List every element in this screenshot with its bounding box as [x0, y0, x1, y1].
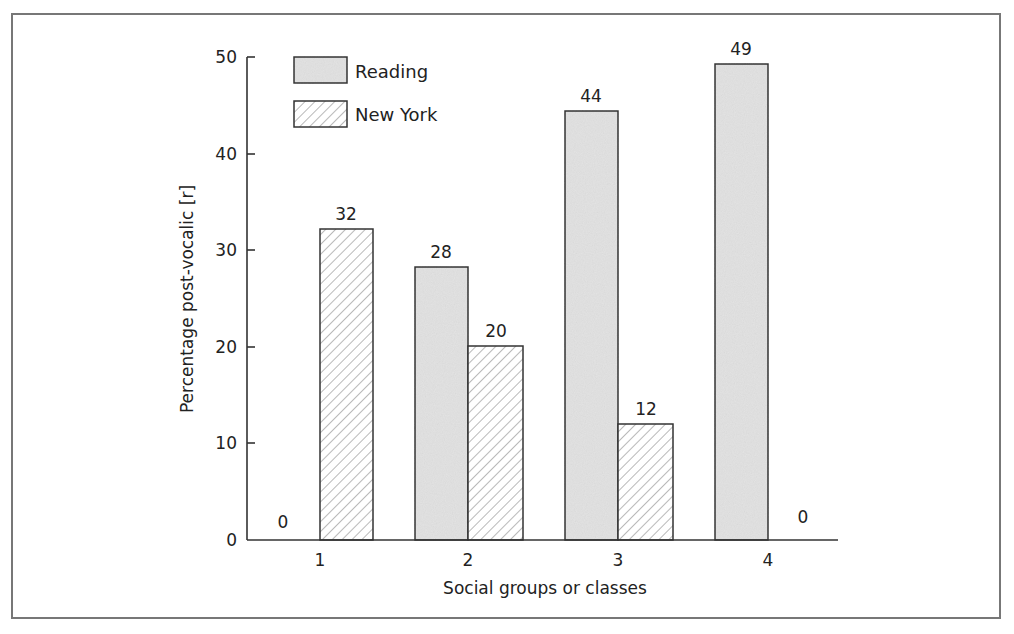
- x-tick-4: 4: [763, 550, 774, 570]
- value-g2-reading: 28: [430, 242, 452, 262]
- y-tick-0: 0: [226, 530, 237, 550]
- x-tick-1: 1: [315, 550, 326, 570]
- legend-swatch-reading: [294, 57, 347, 83]
- legend: Reading New York: [294, 57, 438, 127]
- bars: [320, 64, 768, 540]
- y-axis: 0 10 20 30 40 50 Percentage post-vocalic…: [177, 47, 255, 550]
- bar-g3-newyork: [618, 424, 673, 540]
- x-axis-title: Social groups or classes: [443, 578, 647, 598]
- value-g1-newyork: 32: [335, 204, 357, 224]
- legend-label-reading: Reading: [355, 61, 428, 82]
- legend-label-newyork: New York: [355, 104, 438, 125]
- y-axis-title: Percentage post-vocalic [r]: [177, 185, 197, 413]
- y-tick-40: 40: [215, 144, 237, 164]
- value-g1-reading: 0: [278, 512, 289, 532]
- value-g2-newyork: 20: [485, 321, 507, 341]
- x-axis: 1 2 3 4 Social groups or classes: [247, 540, 838, 598]
- value-g4-newyork: 0: [798, 507, 809, 527]
- bar-g2-reading: [415, 267, 468, 540]
- x-tick-3: 3: [613, 550, 624, 570]
- y-tick-30: 30: [215, 240, 237, 260]
- bar-g3-reading: [565, 111, 618, 540]
- bar-g2-newyork: [468, 346, 523, 540]
- y-tick-50: 50: [215, 47, 237, 67]
- y-tick-10: 10: [215, 433, 237, 453]
- value-g3-newyork: 12: [635, 399, 657, 419]
- value-g3-reading: 44: [580, 86, 602, 106]
- bar-chart: 0 10 20 30 40 50 Percentage post-vocalic…: [0, 0, 1014, 634]
- value-g4-reading: 49: [730, 39, 752, 59]
- bar-g1-newyork: [320, 229, 373, 540]
- x-tick-2: 2: [463, 550, 474, 570]
- legend-swatch-newyork: [294, 101, 347, 127]
- bar-g4-reading: [715, 64, 768, 540]
- y-tick-20: 20: [215, 337, 237, 357]
